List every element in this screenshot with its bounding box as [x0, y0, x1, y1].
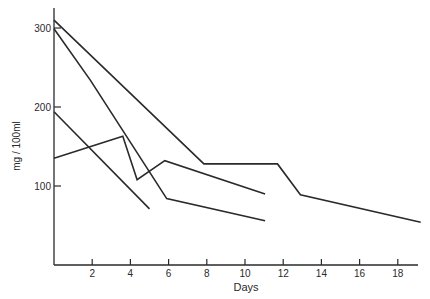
x-tick-label: 4	[128, 268, 134, 279]
series-line-1	[54, 20, 421, 222]
x-tick-label: 12	[278, 268, 290, 279]
x-tick-label: 14	[316, 268, 328, 279]
y-tick-label: 200	[34, 102, 51, 113]
x-tick-label: 6	[166, 268, 172, 279]
x-tick-label: 16	[354, 268, 366, 279]
y-tick-label: 100	[34, 181, 51, 192]
series-line-2	[54, 29, 265, 221]
x-axis-label: Days	[233, 281, 259, 293]
x-tick-label: 18	[392, 268, 404, 279]
series-lines	[54, 20, 421, 222]
x-tick-label: 8	[204, 268, 210, 279]
line-chart: 24681012141618100200300 Days mg / 100ml	[0, 0, 430, 299]
axes: 24681012141618100200300	[34, 8, 418, 279]
x-tick-label: 2	[89, 268, 95, 279]
series-line-4	[54, 112, 150, 209]
y-tick-label: 300	[34, 23, 51, 34]
x-tick-label: 10	[239, 268, 251, 279]
y-axis-label: mg / 100ml	[11, 121, 22, 170]
